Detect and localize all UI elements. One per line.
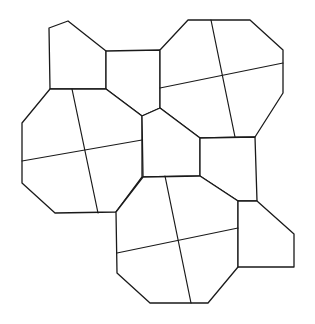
- top-left-pentagon: [49, 21, 106, 89]
- top-right-octagon: [160, 20, 283, 138]
- bottom-right-pentagon: [238, 201, 294, 267]
- tiles-group: [22, 20, 294, 303]
- bottom-octagon: [116, 176, 238, 303]
- tiling-diagram: [0, 0, 315, 324]
